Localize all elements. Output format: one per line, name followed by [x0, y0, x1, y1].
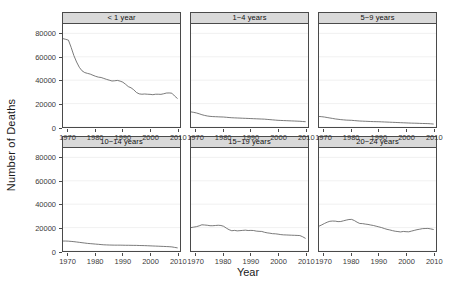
plot-panel-4	[190, 148, 309, 252]
facet-panel-4: 15−19 years	[190, 136, 309, 253]
faceted-line-chart: Number of Deaths 02000040000600008000002…	[0, 0, 451, 290]
facet-strip-label-3: 10−14 years	[62, 136, 181, 148]
plot-panel-2	[318, 24, 437, 128]
facet-panel-2: 5−9 years	[318, 12, 437, 129]
facet-panel-1: 1−4 years	[190, 12, 309, 129]
plot-panel-1	[190, 24, 309, 128]
facet-strip-label-5: 20−24 years	[318, 136, 437, 148]
facet-panel-0: < 1 year	[62, 12, 181, 129]
facet-strip-label-0: < 1 year	[62, 12, 181, 24]
facet-row-bottom: 10−14 years 15−19 years 20−24 years	[62, 136, 438, 253]
y-axis-title: Number of Deaths	[0, 0, 22, 290]
plot-panel-5	[318, 148, 437, 252]
facet-strip-label-1: 1−4 years	[190, 12, 309, 24]
facet-strip-label-4: 15−19 years	[190, 136, 309, 148]
plot-panel-3	[62, 148, 181, 252]
plot-panel-0	[62, 24, 181, 128]
facet-panel-5: 20−24 years	[318, 136, 437, 253]
facet-grid: < 1 year 1−4 years 5−9 years 10−14 years…	[62, 12, 438, 256]
facet-row-top: < 1 year 1−4 years 5−9 years	[62, 12, 438, 129]
facet-strip-label-2: 5−9 years	[318, 12, 437, 24]
facet-panel-3: 10−14 years	[62, 136, 181, 253]
x-axis-title: Year	[62, 266, 434, 278]
